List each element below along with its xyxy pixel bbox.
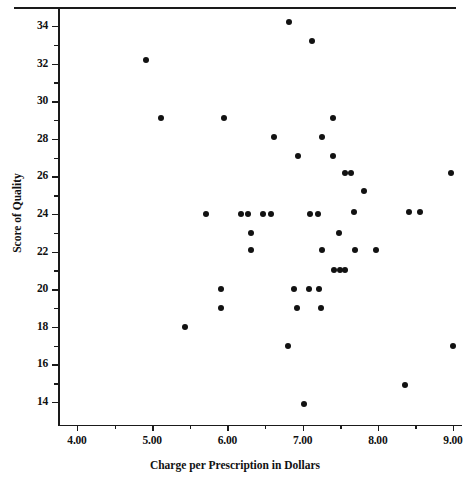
data-point — [268, 211, 274, 217]
y-axis-tick-label: 20 — [18, 282, 48, 294]
data-point — [402, 382, 408, 388]
x-axis-minor-tick — [190, 425, 191, 429]
x-axis-minor-tick — [340, 425, 341, 429]
y-axis-tick — [52, 139, 58, 140]
y-axis-tick — [52, 101, 58, 102]
data-point — [336, 230, 342, 236]
data-point — [307, 211, 313, 217]
data-point — [238, 211, 244, 217]
y-axis-tick — [52, 402, 58, 403]
data-point — [218, 286, 224, 292]
data-point — [361, 188, 367, 194]
x-axis-tick — [378, 425, 379, 431]
data-point — [330, 153, 336, 159]
scatter-plot-figure: 14161820222426283032344.005.006.007.008.… — [0, 0, 470, 489]
data-point — [318, 305, 324, 311]
x-axis-tick — [152, 425, 153, 431]
data-point — [448, 170, 454, 176]
x-axis-tick — [303, 425, 304, 431]
y-axis-tick — [52, 289, 58, 290]
data-point — [285, 343, 291, 349]
data-point — [301, 401, 307, 407]
y-axis-tick-label: 28 — [18, 132, 48, 144]
x-axis-line — [58, 425, 462, 427]
data-point — [286, 19, 292, 25]
data-point — [271, 134, 277, 140]
data-point — [342, 170, 348, 176]
y-axis-tick — [52, 252, 58, 253]
x-axis-tick-label: 8.00 — [357, 434, 399, 446]
x-axis-tick-label: 6.00 — [206, 434, 248, 446]
data-point — [248, 230, 254, 236]
data-point — [373, 247, 379, 253]
y-axis-tick — [52, 26, 58, 27]
data-point — [351, 209, 357, 215]
data-point — [291, 286, 297, 292]
y-axis-tick-label: 30 — [18, 94, 48, 106]
data-point — [406, 209, 412, 215]
y-axis-tick-label: 18 — [18, 320, 48, 332]
y-axis-line — [58, 9, 60, 424]
y-axis-tick — [52, 214, 58, 215]
data-point — [348, 170, 354, 176]
y-axis-tick-label: 14 — [18, 395, 48, 407]
x-axis-minor-tick — [265, 425, 266, 429]
data-point — [182, 324, 188, 330]
data-point — [143, 57, 149, 63]
y-axis-tick — [52, 327, 58, 328]
x-axis-tick — [227, 425, 228, 431]
data-point — [316, 286, 322, 292]
x-axis-tick-label: 9.00 — [432, 434, 470, 446]
data-point — [417, 209, 423, 215]
data-point — [260, 211, 266, 217]
data-point — [309, 38, 315, 44]
x-axis-tick — [453, 425, 454, 431]
data-point — [330, 115, 336, 121]
x-axis-tick-label: 7.00 — [282, 434, 324, 446]
y-axis-tick-label: 16 — [18, 357, 48, 369]
data-point — [221, 115, 227, 121]
y-axis-tick-label: 34 — [18, 19, 48, 31]
x-axis-minor-tick — [415, 425, 416, 429]
y-axis-title: Score of Quality — [11, 158, 23, 268]
y-axis-minor-tick — [54, 346, 58, 347]
data-point — [294, 305, 300, 311]
y-axis-minor-tick — [54, 120, 58, 121]
data-point — [342, 267, 348, 273]
x-axis-tick — [77, 425, 78, 431]
data-point — [218, 305, 224, 311]
data-point — [319, 134, 325, 140]
data-point — [203, 211, 209, 217]
data-point — [450, 343, 456, 349]
y-axis-minor-tick — [54, 45, 58, 46]
x-axis-tick-label: 5.00 — [131, 434, 173, 446]
y-axis-minor-tick — [54, 270, 58, 271]
y-axis-tick — [52, 64, 58, 65]
y-axis-minor-tick — [54, 158, 58, 159]
top-horizontal-rule — [14, 7, 456, 9]
y-axis-minor-tick — [54, 195, 58, 196]
data-point — [248, 247, 254, 253]
data-point — [315, 211, 321, 217]
data-point — [306, 286, 312, 292]
y-axis-tick — [52, 176, 58, 177]
y-axis-minor-tick — [54, 308, 58, 309]
data-point — [319, 247, 325, 253]
x-axis-title: Charge per Prescription in Dollars — [0, 459, 470, 471]
y-axis-minor-tick — [54, 233, 58, 234]
data-point — [295, 153, 301, 159]
y-axis-minor-tick — [54, 82, 58, 83]
data-point — [245, 211, 251, 217]
y-axis-minor-tick — [54, 383, 58, 384]
y-axis-tick — [52, 364, 58, 365]
y-axis-tick-label: 32 — [18, 57, 48, 69]
data-point — [352, 247, 358, 253]
x-axis-minor-tick — [115, 425, 116, 429]
data-point — [158, 115, 164, 121]
x-axis-tick-label: 4.00 — [56, 434, 98, 446]
